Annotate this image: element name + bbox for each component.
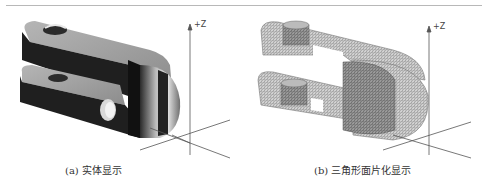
caption-a: (a) 实体显示 bbox=[65, 162, 122, 177]
panel-mesh: +Z bbox=[243, 10, 486, 160]
solid-part-illustration bbox=[0, 10, 243, 160]
caption-b: (b) 三角形面片化显示 bbox=[314, 162, 411, 177]
top-rule bbox=[6, 5, 482, 6]
z-axis-label: +Z bbox=[194, 20, 206, 29]
z-axis-label: +Z bbox=[433, 22, 445, 31]
panel-solid: +Z bbox=[0, 10, 243, 160]
mesh-part-illustration bbox=[243, 10, 487, 160]
